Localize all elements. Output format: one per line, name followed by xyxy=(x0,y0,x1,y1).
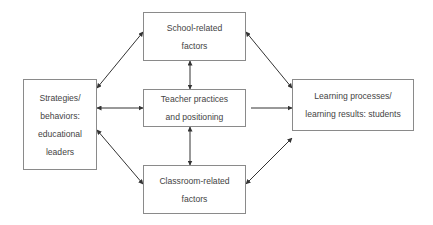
arrow-school-students xyxy=(246,32,292,88)
node-label-line: and positioning xyxy=(166,108,224,126)
arrow-leaders-classroom xyxy=(97,130,143,184)
node-label-line: behaviors: xyxy=(40,107,80,125)
node-label-line: Learning processes/ xyxy=(314,87,391,105)
node-label-line: educational xyxy=(38,125,82,143)
arrow-classroom-students xyxy=(246,138,292,184)
node-teacher-practices: Teacher practices and positioning xyxy=(143,89,246,127)
arrow-leaders-school xyxy=(97,32,143,88)
node-classroom-related-factors: Classroom-related factors xyxy=(143,165,246,214)
node-label-line: factors xyxy=(182,190,208,208)
node-label-line: learning results: students xyxy=(305,105,401,123)
node-label-line: Teacher practices xyxy=(161,90,228,108)
node-label-line: leaders xyxy=(46,143,74,161)
node-label-line: School-related xyxy=(167,19,222,37)
node-student-learning: Learning processes/ learning results: st… xyxy=(292,79,414,131)
node-label-line: factors xyxy=(182,37,208,55)
node-educational-leaders: Strategies/ behaviors: educational leade… xyxy=(23,79,97,170)
node-school-related-factors: School-related factors xyxy=(143,12,246,61)
node-label-line: Strategies/ xyxy=(39,89,80,107)
node-label-line: Classroom-related xyxy=(159,172,229,190)
